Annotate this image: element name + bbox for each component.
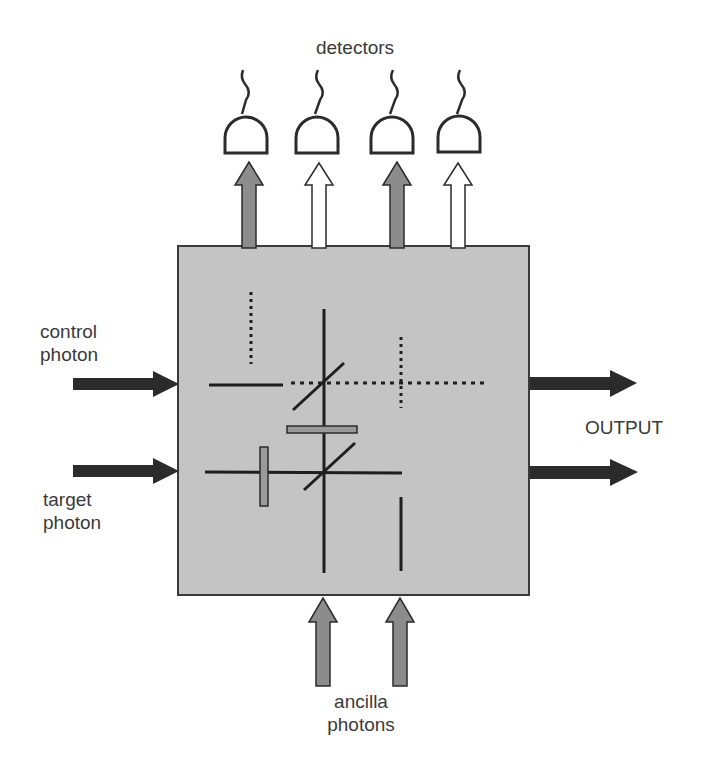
wave-plate-vertical-icon	[260, 447, 268, 506]
arrow-up-white-icon	[444, 163, 472, 248]
arrow-up-gray-icon	[383, 162, 411, 248]
detector-icon	[296, 117, 338, 153]
ancilla-photons-label: ancilla photons	[306, 690, 416, 736]
target-label-line1: target	[43, 488, 101, 511]
control-label-line2: photon	[40, 343, 98, 366]
ancilla-arrow-1-icon	[309, 598, 337, 686]
arrow-up-white-icon	[305, 163, 333, 248]
ancilla-label-line2: photons	[306, 713, 416, 736]
output-arrow-1-icon	[530, 370, 637, 397]
wire-icon	[457, 70, 465, 114]
control-input-arrow-icon	[73, 371, 179, 397]
detector-2	[296, 70, 338, 153]
control-photon-label: control photon	[40, 320, 98, 366]
detector-1	[225, 70, 268, 170]
detector-icon	[438, 116, 480, 152]
output-label: OUTPUT	[585, 416, 663, 439]
control-label-line1: control	[40, 320, 98, 343]
target-path	[205, 472, 402, 473]
diagram-canvas	[0, 0, 715, 780]
wave-plate-horizontal-icon	[287, 426, 357, 433]
target-label-line2: photon	[43, 511, 101, 534]
wire-icon	[315, 70, 323, 114]
wire-icon	[242, 70, 249, 114]
detector-icon	[371, 117, 413, 153]
ancilla-arrow-2-icon	[386, 598, 414, 686]
ancilla-label-line1: ancilla	[306, 690, 416, 713]
detector-4	[438, 70, 480, 152]
output-arrow-2-icon	[530, 459, 638, 486]
detector-3	[371, 70, 413, 153]
detectors-label: detectors	[300, 36, 410, 59]
target-input-arrow-icon	[73, 458, 179, 484]
wire-icon	[390, 70, 398, 114]
arrow-up-gray-icon	[235, 162, 263, 248]
detector-icon	[225, 117, 267, 153]
optical-circuit-box	[178, 246, 529, 595]
target-photon-label: target photon	[43, 488, 101, 534]
